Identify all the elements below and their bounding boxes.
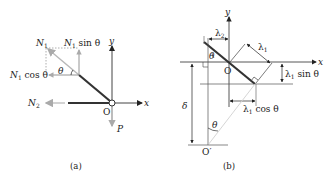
label-lambda1: λ1 (258, 42, 268, 53)
n1-force-arrow (48, 49, 79, 75)
lambda1-rect-edge (256, 63, 272, 83)
right-angle-mark-left (203, 62, 208, 67)
label-n1: N1 (35, 38, 48, 49)
label-origin-prime: O′ (202, 147, 211, 157)
label-x-a: x (144, 98, 149, 108)
label-theta-top: θ (209, 51, 215, 61)
caption-b: (b) (223, 161, 235, 171)
caption-a: (a) (70, 161, 82, 171)
label-lambda2: λ2 (215, 28, 225, 39)
label-n1-sin: N1 sin θ (63, 38, 100, 49)
label-lambda1-sin: λ1 sin θ (285, 69, 319, 80)
label-origin-b: O (224, 66, 231, 76)
label-y-a: y (108, 36, 115, 46)
label-theta-a: θ (58, 66, 64, 76)
label-x-b: x (318, 57, 323, 67)
lambda1-rect-edge (230, 44, 245, 62)
figure-a: N1 N1 sin θ N1 cos θ θ N2 O x y P (a) (9, 36, 149, 171)
label-lambda1-cos: λ1 cos θ (243, 104, 279, 115)
label-n2: N2 (27, 98, 40, 109)
diagonal-rod (79, 75, 110, 101)
label-p: P (116, 124, 124, 134)
figure-b: λ2 λ1 θ O x y λ1 sin θ λ1 cos θ δ θ O′ (… (180, 7, 323, 171)
theta-arc-a (71, 70, 73, 75)
label-theta-bottom: θ (212, 120, 218, 130)
label-origin-a: O (103, 107, 110, 117)
rod-b (204, 42, 255, 84)
label-delta: δ (182, 101, 187, 111)
pivot-o (109, 100, 115, 106)
label-y-b: y (224, 7, 231, 17)
label-n1-cos: N1 cos θ (9, 70, 48, 81)
diagram-canvas: N1 N1 sin θ N1 cos θ θ N2 O x y P (a) (0, 0, 327, 183)
